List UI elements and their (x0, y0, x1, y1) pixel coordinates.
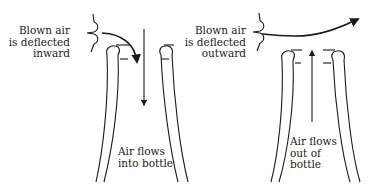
label-line: Blown air (178, 25, 246, 37)
label-line: into bottle (118, 158, 173, 170)
label-line: inward (8, 48, 70, 60)
label-line: Blown air (8, 25, 70, 37)
mouth-icon-right (253, 13, 264, 51)
airflow-label-out: Air flows out of bottle (290, 136, 337, 171)
label-line: outward (178, 48, 246, 60)
blown-air-arrow-outward (262, 19, 358, 36)
mouth-icon-left (87, 14, 98, 52)
label-line: Air flows (118, 146, 173, 158)
blown-air-label-outward: Blown air is deflected outward (178, 25, 246, 60)
label-line: bottle (290, 159, 337, 171)
label-line: Air flows (290, 136, 337, 148)
blown-air-label-inward: Blown air is deflected inward (8, 25, 70, 60)
airflow-label-into: Air flows into bottle (118, 146, 173, 169)
